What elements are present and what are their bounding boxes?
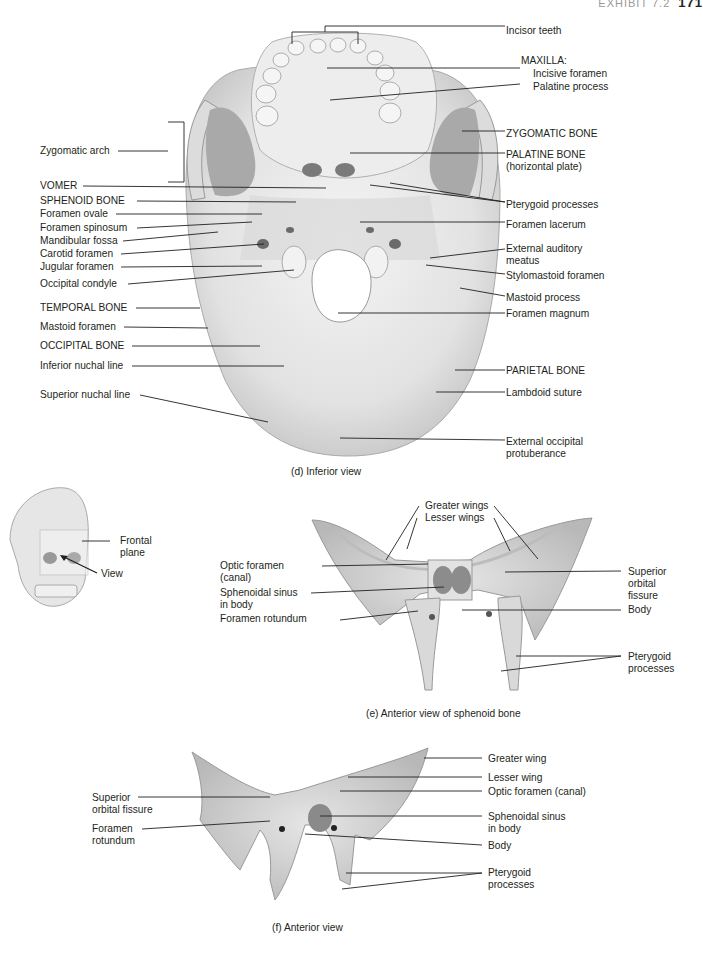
label-greater-wing-f: Greater wing <box>488 753 546 765</box>
label-jugular-foramen: Jugular foramen <box>40 261 114 273</box>
label-external-occipital-protuberance: External occipitalprotuberance <box>506 436 583 460</box>
label-mandibular-fossa: Mandibular fossa <box>40 235 118 247</box>
skull-inferior-view <box>83 26 520 456</box>
label-sphenoidal-sinus-f: Sphenoidal sinusin body <box>488 811 566 835</box>
label-foramen-spinosum: Foramen spinosum <box>40 222 127 234</box>
label-pterygoid-processes-e: Pterygoidprocesses <box>628 651 674 675</box>
label-incisive-foramen: Incisive foramen <box>533 68 607 80</box>
label-carotid-foramen: Carotid foramen <box>40 248 113 260</box>
orientation-skull <box>10 488 110 607</box>
label-optic-foramen-f: Optic foramen (canal) <box>488 786 586 798</box>
label-vomer: VOMER <box>40 180 77 192</box>
label-frontal-plane: Frontalplane <box>120 535 152 559</box>
label-foramen-rotundum-f: Foramenrotundum <box>92 823 135 847</box>
label-mastoid-process: Mastoid process <box>506 292 580 304</box>
sphenoid-anterior-view <box>311 506 621 690</box>
label-body-f: Body <box>488 840 511 852</box>
label-superior-orbital-fissure-f: Superiororbital fissure <box>92 792 153 816</box>
label-sphenoidal-sinus-e: Sphenoidal sinusin body <box>220 587 298 611</box>
label-inferior-nuchal-line: Inferior nuchal line <box>40 360 123 372</box>
label-lesser-wing-f: Lesser wing <box>488 772 542 784</box>
label-occipital-bone: OCCIPITAL BONE <box>40 340 124 352</box>
label-optic-foramen-e: Optic foramen(canal) <box>220 560 284 584</box>
label-incisor-teeth: Incisor teeth <box>506 25 562 37</box>
label-occipital-condyle: Occipital condyle <box>40 278 117 290</box>
caption-d: (d) Inferior view <box>291 466 361 477</box>
label-foramen-rotundum-e: Foramen rotundum <box>220 613 307 625</box>
label-maxilla: MAXILLA: <box>521 55 567 67</box>
label-zygomatic-arch: Zygomatic arch <box>40 145 110 157</box>
label-foramen-ovale: Foramen ovale <box>40 208 108 220</box>
label-parietal-bone: PARIETAL BONE <box>506 365 585 377</box>
label-zygomatic-bone: ZYGOMATIC BONE <box>506 128 598 140</box>
label-sphenoid-bone: SPHENOID BONE <box>40 195 125 207</box>
label-lesser-wings: Lesser wings <box>425 512 484 524</box>
label-foramen-magnum: Foramen magnum <box>506 308 589 320</box>
label-body-e: Body <box>628 604 651 616</box>
label-superior-nuchal-line: Superior nuchal line <box>40 389 130 401</box>
caption-e: (e) Anterior view of sphenoid bone <box>366 708 521 719</box>
label-lambdoid-suture: Lambdoid suture <box>506 387 582 399</box>
label-superior-orbital-fissure-e: Superiororbitalfissure <box>628 566 667 602</box>
label-stylomastoid-foramen: Stylomastoid foramen <box>506 270 605 282</box>
label-palatine-bone: PALATINE BONE(horizontal plate) <box>506 149 585 173</box>
label-mastoid-foramen: Mastoid foramen <box>40 321 116 333</box>
label-pterygoid-processes-d: Pterygoid processes <box>506 199 598 211</box>
label-pterygoid-processes-f: Pterygoidprocesses <box>488 867 534 891</box>
label-palatine-process: Palatine process <box>533 81 608 93</box>
label-external-auditory-meatus: External auditorymeatus <box>506 243 582 267</box>
caption-f: (f) Anterior view <box>272 922 343 933</box>
label-view: View <box>101 568 123 580</box>
label-greater-wings: Greater wings <box>425 500 488 512</box>
label-foramen-lacerum: Foramen lacerum <box>506 219 586 231</box>
sphenoid-anterior-view-2 <box>138 748 482 900</box>
label-temporal-bone: TEMPORAL BONE <box>40 302 127 314</box>
